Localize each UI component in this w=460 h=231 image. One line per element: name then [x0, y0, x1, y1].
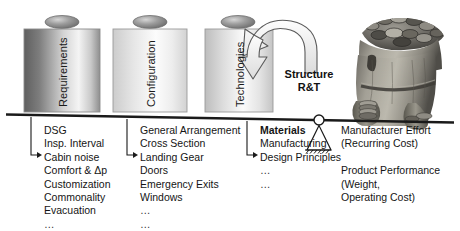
list-item: Doors — [140, 164, 240, 177]
list-item-ellipsis: … — [140, 218, 240, 231]
list-item-ellipsis: … — [140, 204, 240, 217]
list-item: DSG — [44, 124, 111, 137]
pillar-configuration — [113, 16, 187, 113]
list-item: Windows — [140, 191, 240, 204]
list-item-ellipsis: … — [44, 218, 111, 231]
list-item: Landing Gear — [140, 151, 240, 164]
outcomes-list: Manufacturer Effort (Recurring Cost) Pro… — [341, 124, 440, 204]
list-item-ellipsis: … — [260, 178, 341, 191]
connector-technologies — [247, 121, 258, 158]
outcome-line: Product Performance — [341, 164, 440, 177]
list-item: Commonality — [44, 191, 111, 204]
list-item: Evacuation — [44, 204, 111, 217]
list-item: Manufacturing — [260, 137, 341, 150]
list-item-ellipsis: … — [260, 164, 341, 177]
structure-rt-label: Structure R&T — [276, 68, 342, 94]
list-item: Cross Section — [140, 137, 240, 150]
list-item: General Arrangement — [140, 124, 240, 137]
connector-configuration — [127, 119, 138, 158]
configuration-items-list: General Arrangement Cross Section Landin… — [140, 124, 240, 231]
outcome-spacer — [341, 151, 440, 164]
structure-rt-line1: Structure — [285, 68, 334, 80]
connector-requirements — [31, 117, 42, 158]
list-item: Emergency Exits — [140, 178, 240, 191]
outcome-line: Manufacturer Effort — [341, 124, 440, 137]
list-item: Cabin noise — [44, 151, 111, 164]
outcome-line: (Recurring Cost) — [341, 137, 440, 150]
list-item: Insp. Interval — [44, 137, 111, 150]
outcome-line: Operating Cost) — [341, 191, 440, 204]
outcome-line: (Weight, — [341, 178, 440, 191]
list-item: Customization — [44, 178, 111, 191]
requirements-items-list: DSG Insp. Interval Cabin noise Comfort &… — [44, 124, 111, 231]
pillar-requirements — [24, 16, 100, 113]
diagram-canvas: Requirements Configuration Technologies … — [0, 0, 460, 231]
technologies-items-list: Materials Manufacturing Design Principle… — [260, 124, 341, 191]
list-item: Design Principles — [260, 151, 341, 164]
money-sack — [352, 13, 444, 130]
list-item: Comfort & Δp — [44, 164, 111, 177]
structure-rt-line2: R&T — [298, 81, 321, 93]
list-item-materials: Materials — [260, 124, 341, 137]
